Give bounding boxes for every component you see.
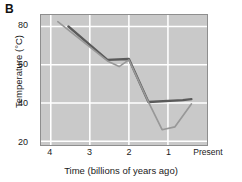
- figure-panel-b: B Temperature (°C) 80604020 4321Present …: [0, 0, 242, 182]
- y-tick-label: 40: [0, 99, 28, 108]
- data-series-layer: [41, 15, 207, 145]
- y-tick-label: 60: [0, 60, 28, 69]
- x-tick-label: 4: [47, 148, 52, 157]
- x-axis-label: Time (billions of years ago): [0, 165, 242, 176]
- series-line-upper-estimate: [68, 26, 191, 102]
- plot-area: [40, 14, 208, 146]
- x-tick-label: 1: [166, 148, 171, 157]
- x-tick-label: 2: [126, 148, 131, 157]
- x-tick-label: Present: [193, 148, 222, 157]
- y-tick-label: 80: [0, 21, 28, 30]
- y-tick-label: 20: [0, 138, 28, 147]
- series-line-lower-estimate: [58, 22, 192, 130]
- x-tick-label: 3: [87, 148, 92, 157]
